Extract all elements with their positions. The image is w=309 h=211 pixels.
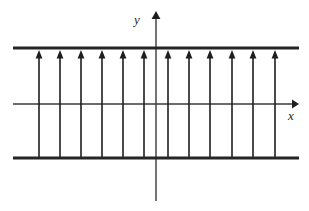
- field-arrow-head-icon: [207, 50, 214, 59]
- field-arrow-head-icon: [165, 50, 172, 59]
- y-axis-label: y: [132, 12, 140, 27]
- field-arrow-head-icon: [186, 50, 193, 59]
- x-axis-label: x: [287, 108, 294, 123]
- field-arrow-head-icon: [250, 50, 257, 59]
- field-arrow-head-icon: [57, 50, 64, 59]
- field-arrow-head-icon: [272, 50, 279, 59]
- field-arrow-head-icon: [120, 50, 127, 59]
- field-arrow-head-icon: [229, 50, 236, 59]
- y-axis: y: [132, 11, 160, 201]
- diagram-canvas: x y: [0, 0, 309, 211]
- field-arrow-head-icon: [78, 50, 85, 59]
- field-arrow-head-icon: [99, 50, 106, 59]
- vector-field-figure: x y: [0, 0, 309, 211]
- y-axis-arrowhead: [152, 11, 161, 19]
- field-arrow-head-icon: [141, 50, 148, 59]
- field-arrow-head-icon: [36, 50, 43, 59]
